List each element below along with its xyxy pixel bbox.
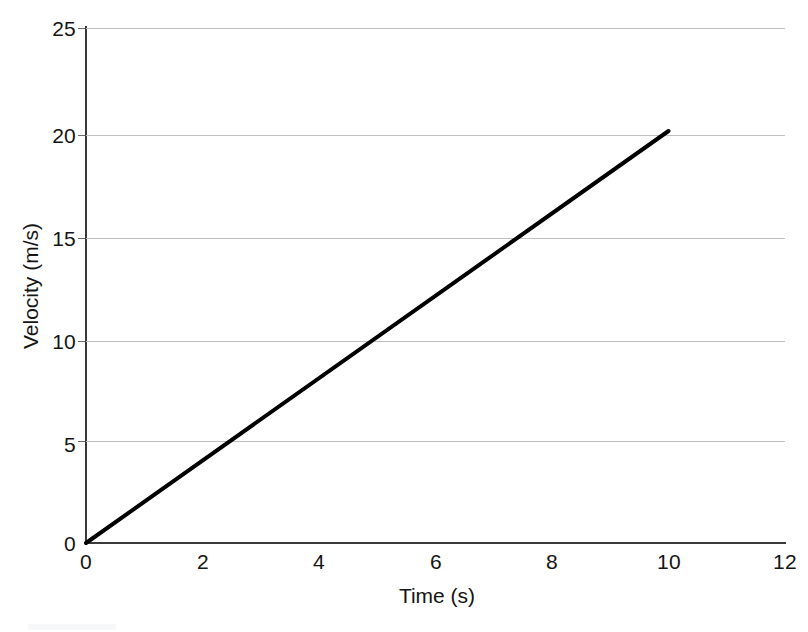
- y-axis-tick-10: [78, 341, 85, 342]
- x-axis-title: Time (s): [399, 585, 475, 607]
- y-axis-title: Velocity (m/s): [20, 223, 42, 349]
- y-tick-label-25: 25: [52, 18, 76, 39]
- scan-artifact: [28, 624, 116, 630]
- chart-figure: 25 20 15 10 5 0 0 2 4 6 8 10 12 Time (s)…: [0, 0, 808, 632]
- plot-area: [86, 28, 785, 543]
- y-tick-label-20: 20: [52, 125, 76, 146]
- x-tick-label-12: 12: [773, 551, 797, 572]
- y-axis-tick-5: [78, 441, 85, 442]
- x-tick-label-8: 8: [546, 551, 558, 572]
- x-tick-label-2: 2: [197, 551, 209, 572]
- y-axis-tick-20: [78, 135, 85, 136]
- y-axis-tick-15: [78, 238, 85, 239]
- x-tick-label-4: 4: [313, 551, 325, 572]
- y-tick-label-5: 5: [64, 434, 76, 455]
- velocity-line: [86, 131, 669, 543]
- y-tick-label-10: 10: [52, 331, 76, 352]
- y-tick-label-15: 15: [52, 228, 76, 249]
- x-tick-label-10: 10: [657, 551, 681, 572]
- data-series-velocity: [86, 28, 785, 543]
- y-tick-label-0: 0: [64, 533, 76, 554]
- x-tick-label-6: 6: [430, 551, 442, 572]
- y-axis-tick-25: [78, 28, 85, 29]
- x-tick-label-0: 0: [80, 551, 92, 572]
